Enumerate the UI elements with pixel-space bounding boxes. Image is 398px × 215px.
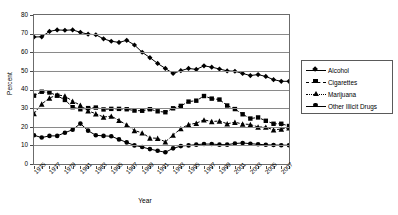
data-point-marker xyxy=(170,132,176,137)
data-point-marker xyxy=(279,79,284,84)
data-point-marker xyxy=(201,63,206,68)
plot-area xyxy=(33,14,290,165)
data-point-marker xyxy=(163,110,167,114)
data-point-marker xyxy=(217,97,221,101)
data-point-marker xyxy=(202,94,206,98)
data-point-marker xyxy=(217,118,223,123)
data-point-marker xyxy=(34,34,37,39)
data-point-marker xyxy=(225,103,229,107)
data-point-marker xyxy=(279,122,283,126)
y-axis-title: Percent xyxy=(6,56,13,112)
data-point-marker xyxy=(186,99,190,103)
legend-item-cigarettes[interactable]: Cigarettes xyxy=(305,76,389,88)
data-point-marker xyxy=(109,134,114,139)
data-point-marker xyxy=(78,121,83,126)
gridline xyxy=(34,108,289,109)
legend-label: Other Illicit Drugs xyxy=(328,103,377,110)
data-point-marker xyxy=(248,116,252,120)
legend-key-square-icon xyxy=(305,77,327,88)
data-point-marker xyxy=(116,40,121,45)
legend-label: Cigarettes xyxy=(328,79,357,86)
y-tick-label: 70 xyxy=(12,30,28,36)
data-point-marker xyxy=(271,77,276,82)
data-point-marker xyxy=(47,134,52,139)
data-point-marker xyxy=(70,127,75,132)
gridline xyxy=(34,52,289,53)
data-point-marker xyxy=(147,135,153,140)
data-point-marker xyxy=(210,96,214,100)
legend-item-other-illicit-drugs[interactable]: Other Illicit Drugs xyxy=(305,100,389,112)
data-point-marker xyxy=(109,39,114,44)
data-point-marker xyxy=(240,112,244,116)
series-alcohol xyxy=(34,27,289,84)
gridline xyxy=(34,71,289,72)
data-point-marker xyxy=(62,28,67,33)
data-point-marker xyxy=(209,65,214,70)
data-point-marker xyxy=(47,95,53,100)
data-point-marker xyxy=(124,140,129,145)
data-point-marker xyxy=(256,115,260,119)
x-axis-title: Year xyxy=(0,197,290,204)
legend-key-diamond-icon xyxy=(305,65,327,76)
y-tick-label: 20 xyxy=(12,124,28,130)
data-point-marker xyxy=(93,111,99,116)
y-tick-label: 60 xyxy=(12,49,28,55)
legend-key-triangle-icon xyxy=(305,89,327,100)
data-point-marker xyxy=(70,99,76,104)
data-point-marker xyxy=(101,134,106,139)
data-point-marker xyxy=(34,133,36,138)
data-point-marker xyxy=(86,128,91,133)
data-point-marker xyxy=(55,134,60,139)
data-point-marker xyxy=(39,135,44,140)
legend-label: Marijuana xyxy=(328,91,356,98)
data-point-marker xyxy=(132,128,138,133)
data-point-marker xyxy=(101,36,106,41)
data-point-marker xyxy=(34,93,36,97)
legend-key-circle-icon xyxy=(305,101,327,112)
data-point-marker xyxy=(155,109,159,113)
data-point-marker xyxy=(55,27,60,32)
data-point-marker xyxy=(209,119,215,124)
chart-figure: 01020304050607080 Percent 19751977197919… xyxy=(0,0,398,215)
y-tick-label: 80 xyxy=(12,12,28,18)
data-point-marker xyxy=(140,109,144,113)
data-point-marker xyxy=(155,148,160,153)
gridline xyxy=(34,34,289,35)
gridline xyxy=(34,90,289,91)
data-point-marker xyxy=(271,122,275,126)
data-point-marker xyxy=(62,93,68,98)
data-point-marker xyxy=(286,79,289,84)
legend-label: Alcohol xyxy=(328,67,349,74)
data-point-marker xyxy=(139,130,145,135)
data-point-marker xyxy=(148,147,153,152)
data-point-marker xyxy=(94,133,99,138)
gridline xyxy=(34,145,289,146)
data-point-marker xyxy=(63,130,68,135)
data-point-marker xyxy=(163,150,168,155)
gridline xyxy=(34,127,289,128)
legend-item-alcohol[interactable]: Alcohol xyxy=(305,64,389,76)
legend: Alcohol Cigarettes Marijuana Other Illic… xyxy=(301,60,393,114)
data-point-marker xyxy=(116,118,122,123)
data-point-marker xyxy=(263,74,268,79)
legend-item-marijuana[interactable]: Marijuana xyxy=(305,88,389,100)
y-tick-label: 10 xyxy=(12,142,28,148)
data-point-marker xyxy=(117,137,122,142)
y-tick-label: 40 xyxy=(12,86,28,92)
data-point-marker xyxy=(255,72,260,77)
data-point-marker xyxy=(78,102,84,107)
data-point-marker xyxy=(124,38,129,43)
data-point-marker xyxy=(47,90,51,94)
data-point-marker xyxy=(264,119,268,123)
data-point-marker xyxy=(194,98,198,102)
y-tick-label: 30 xyxy=(12,105,28,111)
data-point-marker xyxy=(70,27,75,32)
y-tick-label: 0 xyxy=(12,161,28,167)
data-point-marker xyxy=(248,73,253,78)
y-tick-label: 50 xyxy=(12,68,28,74)
data-point-marker xyxy=(171,146,176,151)
